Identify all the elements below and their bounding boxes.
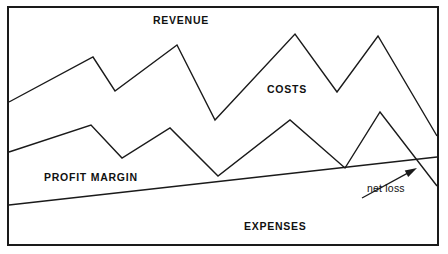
label-costs: COSTS xyxy=(267,84,307,95)
chart-plot-area xyxy=(0,0,448,254)
chart-illustration: REVENUE COSTS PROFIT MARGIN EXPENSES net… xyxy=(0,0,448,254)
label-revenue: REVENUE xyxy=(153,15,209,26)
label-net-loss: net loss xyxy=(367,183,405,194)
revenue-line xyxy=(9,34,437,136)
label-profit-margin: PROFIT MARGIN xyxy=(44,172,138,183)
label-expenses: EXPENSES xyxy=(244,221,307,232)
net-loss-arrow-icon xyxy=(405,168,417,177)
